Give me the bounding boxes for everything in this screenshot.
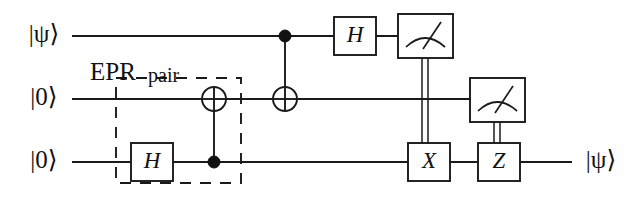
pauli-z-gate-label: Z	[493, 148, 506, 173]
measurement-q1[interactable]	[470, 78, 525, 122]
pauli-x-gate[interactable]: X	[408, 143, 450, 181]
output-label-q2: |ψ⟩	[586, 146, 616, 173]
input-label-q1: |0⟩	[30, 83, 57, 110]
pauli-x-gate-label: X	[421, 148, 437, 173]
hadamard-gate-q0-label: H	[346, 22, 365, 47]
input-label-q0: |ψ⟩	[29, 20, 59, 47]
hadamard-gate-q0[interactable]: H	[334, 17, 376, 55]
measurement-q1-box	[470, 78, 525, 122]
hadamard-gate-q2-label: H	[143, 148, 162, 173]
cnot-q2-to-q1-control-dot	[208, 156, 220, 168]
measurement-q0[interactable]	[398, 14, 453, 58]
epr-pair-label-main: EPR	[90, 58, 136, 85]
cnot-q0-to-q1-control-dot	[279, 30, 291, 42]
pauli-z-gate[interactable]: Z	[478, 143, 520, 181]
classical-wire-x	[422, 58, 428, 143]
hadamard-gate-q2[interactable]: H	[131, 143, 173, 181]
cnot-q2-to-q1[interactable]	[202, 87, 226, 168]
epr-pair-label-sub: pair	[148, 64, 179, 87]
circuit-canvas: |ψ⟩ |0⟩ |0⟩ |ψ⟩ EPR pair H	[0, 0, 644, 203]
input-label-q2: |0⟩	[30, 146, 57, 173]
quantum-circuit-figure: |ψ⟩ |0⟩ |0⟩ |ψ⟩ EPR pair H	[0, 0, 644, 203]
measurement-q0-box	[398, 14, 453, 58]
classical-wire-z	[494, 122, 500, 143]
cnot-q0-to-q1[interactable]	[273, 30, 297, 111]
